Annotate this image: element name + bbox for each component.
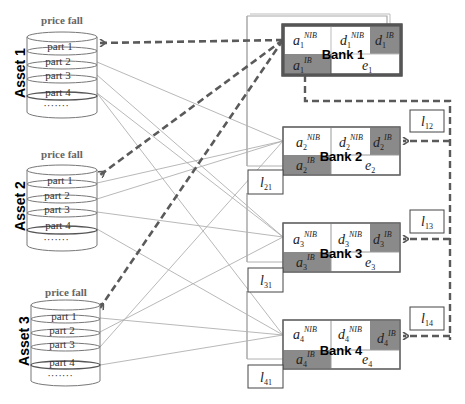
asset-1-label: Asset 1 [12, 48, 28, 98]
asset3-part-4: part 4 [49, 356, 75, 368]
bank-2-label: Bank 2 [320, 149, 363, 164]
interbank-label-l41: l41 [248, 365, 283, 388]
asset2-part-2: part 2 [44, 189, 69, 201]
bank-1-label: Bank 1 [322, 47, 365, 62]
asset1-part-4: part 4 [45, 86, 71, 98]
bank-4: a4NIB d4NIB d4IB a4IB e4 Bank 4 [283, 320, 400, 369]
price-fall-label: price fall [41, 148, 83, 160]
asset-2-label: Asset 2 [12, 181, 28, 231]
asset2-part-3: part 3 [44, 203, 70, 215]
interbank-label-l21: l21 [248, 170, 283, 194]
asset3-part-1: part 1 [51, 310, 76, 322]
asset-1: price fall part 1 part 2 part 3 part 4 ·… [12, 14, 97, 118]
asset1-ellipsis: ······· [43, 99, 69, 111]
asset1-part-2: part 2 [45, 55, 70, 67]
price-fall-label: price fall [45, 286, 87, 298]
asset2-part-1: part 1 [47, 174, 72, 186]
interbank-label-l13: l13 [410, 210, 444, 233]
bank-3-label: Bank 3 [320, 246, 363, 261]
asset3-part-3: part 3 [49, 338, 75, 350]
asset1-part-3: part 3 [45, 69, 71, 81]
interbank-label-l14: l14 [410, 307, 444, 330]
bank-3: a3NIB d3NIB d3IB a3IB e3 Bank 3 [283, 223, 400, 272]
asset-3: price fall part 1 part 2 part 3 part 4 ·… [16, 286, 100, 386]
asset2-part-4: part 4 [45, 219, 71, 231]
bank-2: a2NIB d2NIB d2IB a2IB e2 Bank 2 [283, 127, 400, 175]
asset1-part-1: part 1 [47, 40, 72, 52]
bank-1: a1NIB d1NIB d1IB a1IB e1 Bank 1 [283, 25, 401, 75]
asset-2: price fall part 1 part 2 part 3 part 4 ·… [12, 148, 97, 251]
asset-3-label: Asset 3 [16, 316, 32, 366]
price-fall-label: price fall [41, 14, 83, 26]
contagion-diagram: price fall part 1 part 2 part 3 part 4 ·… [0, 0, 465, 404]
interbank-label-l31: l31 [248, 268, 283, 292]
asset3-ellipsis: ······· [47, 369, 73, 381]
asset3-part-2: part 2 [49, 324, 74, 336]
interbank-label-l12: l12 [410, 110, 444, 132]
bank-4-label: Bank 4 [320, 343, 363, 358]
asset2-ellipsis: ······· [43, 233, 69, 245]
